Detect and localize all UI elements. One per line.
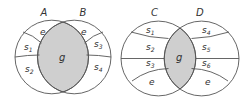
region-label-a-mid: s1 (24, 42, 33, 53)
region-label-c-3: s3 (146, 58, 155, 69)
region-label-c-2: s2 (146, 42, 155, 53)
region-label-d-1: s4 (202, 25, 211, 36)
region-label-c-1: s1 (146, 25, 155, 36)
set-label-c: C (151, 7, 158, 18)
region-label-b-bot: s4 (94, 62, 103, 73)
region-label-c-4: e (149, 77, 155, 87)
set-label-a: A (40, 7, 48, 18)
region-label-b-top: e (81, 27, 87, 37)
divider-a-s1-s2 (15, 55, 40, 57)
region-label-d-2: s5 (202, 42, 211, 53)
region-label-b-mid: s3 (94, 39, 103, 50)
venn-diagram-figure: A B e s1 s2 g e s3 s4 C D s1 s2 s3 e (0, 0, 251, 101)
region-label-ab-intersection: g (59, 52, 65, 63)
region-label-d-3: s6 (202, 58, 211, 69)
venn-diagram-a-b: A B e s1 s2 g e s3 s4 (15, 7, 111, 94)
region-label-d-4: e (205, 77, 211, 87)
set-label-d: D (196, 7, 204, 18)
divider-b-s3-s4 (87, 55, 112, 57)
region-label-cd-intersection: g (176, 52, 182, 63)
venn-diagram-c-d: C D s1 s2 s3 e g s4 s5 s6 e (121, 7, 239, 96)
set-label-b: B (80, 7, 87, 18)
region-label-a-top: e (40, 27, 46, 37)
region-label-a-bot: s2 (25, 64, 34, 75)
